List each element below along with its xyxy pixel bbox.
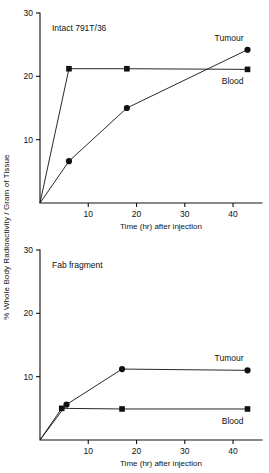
x-tick-label: 40 bbox=[228, 209, 238, 219]
y-tick-label: 20 bbox=[24, 71, 34, 81]
data-point-blood bbox=[124, 66, 130, 72]
x-axis-title: Time (hr) after injection bbox=[120, 459, 202, 468]
chart-svg-fab: 10203010203040Time (hr) after injectionF… bbox=[0, 237, 269, 473]
y-tick-label: 10 bbox=[24, 372, 34, 382]
panel-title: Intact 791T/36 bbox=[52, 23, 107, 33]
series-line-tumour bbox=[40, 50, 248, 203]
x-tick-label: 20 bbox=[132, 446, 142, 456]
series-label-tumour: Tumour bbox=[215, 33, 244, 43]
data-point-tumour bbox=[244, 367, 250, 373]
data-point-tumour bbox=[119, 366, 125, 372]
series-label-blood: Blood bbox=[222, 76, 244, 86]
data-point-blood bbox=[245, 406, 251, 412]
chart-svg-intact: 10203010203040Time (hr) after injectionI… bbox=[0, 0, 269, 236]
series-label-blood: Blood bbox=[222, 416, 244, 426]
data-point-blood bbox=[119, 406, 125, 412]
series-label-tumour: Tumour bbox=[215, 353, 244, 363]
series-line-blood bbox=[40, 69, 248, 203]
chart-panel-intact: 10203010203040Time (hr) after injectionI… bbox=[0, 0, 269, 236]
data-point-tumour bbox=[244, 47, 250, 53]
y-tick-label: 10 bbox=[24, 135, 34, 145]
figure: % Whole Body Radioactivity / Gram of Tis… bbox=[0, 0, 269, 473]
data-point-tumour bbox=[124, 105, 130, 111]
series-line-blood bbox=[40, 408, 248, 440]
x-tick-label: 40 bbox=[228, 446, 238, 456]
chart-panel-fab: 10203010203040Time (hr) after injectionF… bbox=[0, 237, 269, 473]
axis-lines bbox=[40, 250, 262, 440]
y-tick-label: 30 bbox=[24, 8, 34, 18]
data-point-blood bbox=[59, 406, 65, 412]
x-tick-label: 10 bbox=[84, 209, 94, 219]
data-point-tumour bbox=[66, 158, 72, 164]
x-tick-label: 10 bbox=[84, 446, 94, 456]
y-tick-label: 30 bbox=[24, 245, 34, 255]
x-tick-label: 30 bbox=[180, 209, 190, 219]
x-tick-label: 20 bbox=[132, 209, 142, 219]
series-line-tumour bbox=[40, 369, 248, 440]
x-axis-title: Time (hr) after injection bbox=[120, 222, 202, 231]
y-tick-label: 20 bbox=[24, 308, 34, 318]
x-tick-label: 30 bbox=[180, 446, 190, 456]
data-point-blood bbox=[245, 67, 251, 73]
data-point-blood bbox=[66, 66, 72, 72]
panel-title: Fab fragment bbox=[52, 260, 103, 270]
